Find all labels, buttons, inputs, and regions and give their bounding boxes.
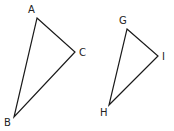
vertex-label-g: G [119,15,127,26]
vertex-label-a: A [28,4,35,15]
vertex-label-h: H [100,107,108,118]
triangle-ghi [109,29,158,105]
vertex-label-c: C [79,47,86,58]
vertex-label-i: I [162,51,165,62]
triangle-abc [14,18,75,117]
diagram-canvas: A C B G I H [0,0,174,131]
vertex-label-b: B [4,117,11,128]
